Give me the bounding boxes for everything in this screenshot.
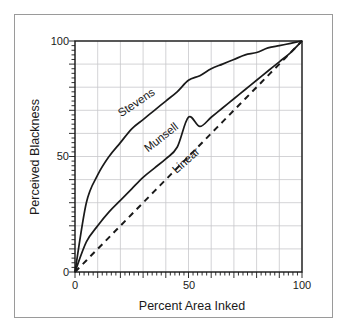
blackness-chart: 100 50 0 0 50 100 Percent Area Inked Per… — [0, 0, 350, 335]
y-tick-label-0: 0 — [63, 266, 69, 278]
x-tick-label-100: 100 — [293, 279, 311, 291]
curve-labels-layer: StevensMunsellLinear — [116, 86, 202, 176]
figure-root: 100 50 0 0 50 100 Percent Area Inked Per… — [0, 0, 350, 335]
curve-label-munsell: Munsell — [142, 120, 181, 154]
x-tick-label-0: 0 — [72, 279, 78, 291]
x-axis-title: Percent Area Inked — [139, 299, 245, 313]
y-tick-label-50: 50 — [57, 150, 69, 162]
y-axis-title: Perceived Blackness — [28, 99, 42, 215]
x-tick-label-50: 50 — [183, 279, 195, 291]
y-tick-label-100: 100 — [51, 35, 69, 47]
